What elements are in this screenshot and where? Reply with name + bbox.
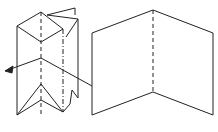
folding-diagram bbox=[0, 0, 218, 132]
arrow-icon bbox=[5, 58, 92, 86]
unfolded-sheet bbox=[92, 10, 213, 115]
